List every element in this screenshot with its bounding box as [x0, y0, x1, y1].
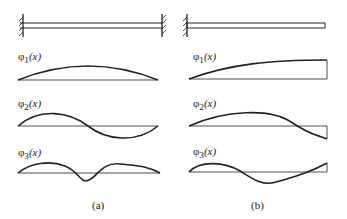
mode-label-b1: φ1(x)	[193, 50, 216, 65]
argument: (x)	[204, 97, 216, 109]
mode-label-a1: φ1(x)	[18, 50, 41, 65]
argument: (x)	[29, 146, 41, 158]
caption-b: (b)	[251, 199, 264, 211]
argument: (x)	[204, 50, 216, 62]
mode-label-b2: φ2(x)	[193, 97, 216, 112]
mode-b2	[189, 113, 327, 139]
argument: (x)	[204, 145, 216, 157]
mode-shapes-diagram	[0, 0, 347, 219]
beam-b	[183, 14, 325, 37]
caption-a: (a)	[92, 199, 104, 211]
mode-a2	[18, 114, 158, 138]
mode-label-b3: φ3(x)	[193, 145, 216, 160]
mode-label-a3: φ3(x)	[18, 146, 41, 161]
mode-a3	[18, 163, 160, 181]
mode-b3	[189, 163, 327, 183]
argument: (x)	[29, 97, 41, 109]
mode-a1	[18, 66, 158, 80]
mode-label-a2: φ2(x)	[18, 97, 41, 112]
argument: (x)	[29, 50, 41, 62]
beam-a	[19, 14, 166, 37]
